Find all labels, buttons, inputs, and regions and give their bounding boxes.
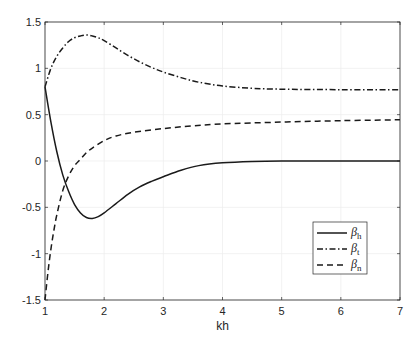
y-tick-label: 1 bbox=[35, 62, 41, 74]
x-tick-label: 4 bbox=[219, 305, 225, 317]
y-tick-label: 0.5 bbox=[26, 109, 41, 121]
y-tick-label: -1 bbox=[31, 248, 41, 260]
x-tick-label: 1 bbox=[42, 305, 48, 317]
x-tick-label: 7 bbox=[397, 305, 403, 317]
y-tick-label: 0 bbox=[35, 155, 41, 167]
x-tick-label: 5 bbox=[279, 305, 285, 317]
y-tick-label: -0.5 bbox=[22, 201, 41, 213]
x-tick-label: 6 bbox=[338, 305, 344, 317]
x-axis-label: kh bbox=[216, 319, 229, 333]
legend: βhβtβn bbox=[313, 222, 367, 274]
line-chart: 1234567-1.5-1-0.500.511.5 kh βhβtβn bbox=[0, 0, 419, 348]
y-tick-label: -1.5 bbox=[22, 294, 41, 306]
x-tick-label: 3 bbox=[160, 305, 166, 317]
x-tick-label: 2 bbox=[101, 305, 107, 317]
y-tick-label: 1.5 bbox=[26, 16, 41, 28]
